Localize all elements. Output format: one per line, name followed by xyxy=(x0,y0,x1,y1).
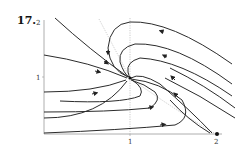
equilibrium-point-2-0 xyxy=(215,132,219,136)
trajectories xyxy=(44,18,235,133)
x-tick-1: 1 xyxy=(128,138,132,146)
x-tick-2: 2 xyxy=(214,138,218,146)
phase-portrait: 2 1 1 2 xyxy=(0,0,240,152)
spiral-sink-point xyxy=(128,76,131,79)
y-tick-1: 1 xyxy=(36,74,40,82)
axes xyxy=(42,20,222,136)
y-tick-2: 2 xyxy=(36,19,40,27)
